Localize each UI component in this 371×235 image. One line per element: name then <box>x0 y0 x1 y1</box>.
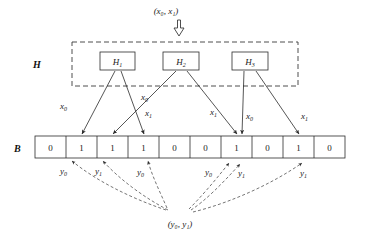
hash-box-3-label: H3 <box>244 57 255 68</box>
query-edge-y1-c: y1 <box>193 163 307 212</box>
hash-function-box-1[interactable]: H1 <box>100 52 135 70</box>
query-element-label: (y₀, y₁) <box>168 219 193 229</box>
bit-array-cell-1[interactable]: 1 <box>79 143 84 153</box>
insert-edge-h2-x1-label: x1 <box>209 107 217 118</box>
bit-array-cell-6[interactable]: 1 <box>234 143 239 153</box>
input-element-text: (x₀, x₁) <box>154 6 179 16</box>
bit-array-cell-7[interactable]: 0 <box>265 143 270 153</box>
query-edge-y0-c-label: y0 <box>204 167 212 178</box>
insert-edge-h1-x1-label: x1 <box>144 108 152 119</box>
bit-array-label: B <box>13 143 21 154</box>
insert-edge-h3-x0: x0 <box>242 71 253 134</box>
hash-function-box-2[interactable]: H2 <box>163 52 199 70</box>
hash-box-1-label: H1 <box>112 57 123 68</box>
insert-edge-h1-x0: x0 <box>59 71 115 134</box>
bit-array-cell-9[interactable]: 0 <box>327 143 332 153</box>
insert-edge-h3-x0-label: x0 <box>245 111 253 122</box>
query-edge-y1-a-label: y1 <box>94 166 102 177</box>
query-edge-y0-b-label: y0 <box>136 167 144 178</box>
query-edge-y1-b: y1 <box>191 164 245 210</box>
insert-direction-arrow <box>174 20 184 36</box>
bit-array-cell-4[interactable]: 0 <box>172 143 177 153</box>
bit-array-cell-3[interactable]: 1 <box>141 143 146 153</box>
hash-function-box-3[interactable]: H3 <box>232 52 268 70</box>
query-edge-y1-c-label: y1 <box>299 168 307 179</box>
bit-array-cell-8[interactable]: 1 <box>296 143 301 153</box>
hash-set-label: H <box>32 59 42 70</box>
bit-array-cell-5[interactable]: 0 <box>203 143 208 153</box>
insert-edge-h3-x1-label: x1 <box>300 111 308 122</box>
figure-canvas: (x₀, x₁) H H1 H2 H3 <box>0 0 371 235</box>
query-edge-y0-b: y0 <box>136 161 167 208</box>
query-edge-y0-c: y0 <box>189 163 229 209</box>
insert-edge-h2-x1: x1 <box>187 71 237 134</box>
input-element-label: (x₀, x₁) <box>154 6 179 16</box>
query-edge-y1-a: y1 <box>94 161 168 210</box>
insert-edge-h2-x0: x0 <box>113 71 176 134</box>
insert-edge-h2-x0-label: x0 <box>140 92 148 103</box>
query-edge-y0-a-label: y0 <box>59 166 67 177</box>
insert-edge-h3-x1: x1 <box>256 71 308 134</box>
bit-array-cell-0[interactable]: 0 <box>48 143 53 153</box>
query-edge-y1-b-label: y1 <box>237 168 245 179</box>
bit-array-cell-2[interactable]: 1 <box>110 143 115 153</box>
bit-array: 0 1 1 1 0 0 1 0 1 0 <box>35 136 345 158</box>
bloom-filter-diagram: (x₀, x₁) H H1 H2 H3 <box>0 0 371 235</box>
hash-box-2-label: H2 <box>175 57 186 68</box>
insert-edge-h1-x0-label: x0 <box>59 101 67 112</box>
